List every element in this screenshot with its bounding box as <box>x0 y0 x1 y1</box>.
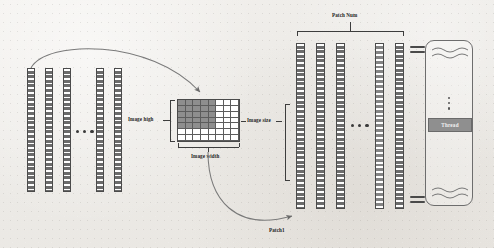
paper-texture-overlay <box>0 0 494 248</box>
thread-chip: Thread <box>428 118 472 132</box>
patch-num-bracket-left-tip <box>297 31 298 36</box>
left-bar-3 <box>63 68 71 192</box>
connector-overlay <box>0 0 494 248</box>
image-size-leader <box>276 121 282 122</box>
right-bar-3 <box>336 43 345 209</box>
grid-cell <box>216 135 224 141</box>
image-size-tick <box>241 121 246 122</box>
grid-cell <box>178 135 186 141</box>
thread-vertical-ellipsis <box>448 97 450 110</box>
patch1-bracket-stem <box>285 104 286 180</box>
image-width-bracket-left <box>178 143 179 147</box>
arrow-image-to-patch <box>208 152 292 220</box>
diagram-canvas: Image high Image width Image size Patch … <box>0 0 494 248</box>
image-size-label: Image size <box>247 118 271 123</box>
patch1-label: Patch1 <box>269 228 285 233</box>
patch-num-bracket-stem <box>350 22 351 31</box>
image-high-tick <box>163 120 170 121</box>
patch-num-label: Patch Num <box>332 13 357 18</box>
left-bar-5 <box>114 68 122 192</box>
grid-cell <box>186 135 194 141</box>
patch1-bracket-top <box>285 104 290 105</box>
patch-num-bracket-right-tip <box>403 31 404 36</box>
image-width-bracket-right <box>239 143 240 147</box>
left-bar-1 <box>27 68 35 192</box>
left-bar-4 <box>96 68 104 192</box>
grid-cell <box>224 135 232 141</box>
image-width-label: Image width <box>191 154 219 159</box>
right-bar-4 <box>375 43 384 209</box>
image-grid <box>177 99 240 142</box>
grid-cell <box>231 135 239 141</box>
right-bar-1 <box>296 43 305 209</box>
grid-cell <box>201 135 209 141</box>
image-high-bracket-bottom <box>170 141 175 142</box>
grid-cell <box>193 135 201 141</box>
right-bar-2 <box>316 43 325 209</box>
patch1-bracket-bottom <box>285 180 290 181</box>
right-group-ellipsis <box>351 124 369 127</box>
right-bar-5 <box>395 43 404 209</box>
image-width-tick <box>208 147 209 152</box>
thread-label: Thread <box>441 122 459 128</box>
image-high-bracket-stem <box>170 100 171 141</box>
patch-num-bracket-span <box>297 31 403 32</box>
grid-cell <box>209 135 217 141</box>
left-bar-2 <box>45 68 53 192</box>
image-high-label: Image high <box>128 117 153 122</box>
image-high-bracket-top <box>170 100 175 101</box>
left-group-ellipsis <box>76 130 94 133</box>
equals-sign-bottom <box>410 196 425 203</box>
equals-sign-top <box>410 46 425 53</box>
